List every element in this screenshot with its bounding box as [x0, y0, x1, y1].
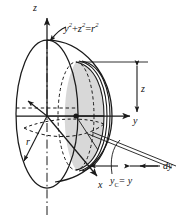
x-axis-label: x	[98, 180, 102, 190]
radius-dimension-label: r	[26, 137, 30, 147]
z-axis-label: z	[33, 3, 37, 13]
z-dimension-label: z	[141, 84, 145, 94]
y-axis-label: y	[133, 116, 137, 126]
dy-dimension-label: dy	[163, 161, 172, 171]
radius-dimension-arrow	[24, 101, 47, 161]
figure-canvas: y2+z2=r2 z y x z r dy yC= y	[0, 0, 190, 222]
centroid-y-label: yC= y	[110, 176, 132, 188]
surface-equation-label: y2+z2=r2	[64, 22, 98, 34]
yc-leader-curve	[111, 140, 120, 174]
